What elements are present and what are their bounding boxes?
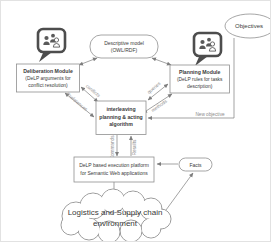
descriptive-model-node: Descriptive model (OWL/RDF): [90, 35, 158, 58]
edge-label-methods: methods: [150, 98, 168, 113]
planning-module-title: Planning Module: [179, 69, 221, 75]
interleaving-algorithm-node: interleaving planning & acting algorithm: [96, 101, 146, 135]
edges: conflicts Preferences queries methods Ne…: [65, 38, 234, 210]
deliberation-module-title: Deliberation Module: [23, 68, 73, 74]
edge-label-preferences: Preferences: [66, 92, 89, 112]
edge-environment-facts: [166, 173, 193, 210]
planning-module-node: Planning Module (DeLP rules for tasks de…: [170, 65, 230, 93]
edge-label-commands: Commands: [110, 135, 115, 160]
objectives-label: Objectives: [235, 23, 263, 29]
edge-label-new-objective: New objective: [195, 112, 225, 117]
architecture-diagram: conflicts Preferences queries methods Ne…: [0, 0, 271, 242]
facts-node: Facts: [179, 158, 212, 171]
planning-module-line2: description): [187, 84, 213, 89]
interleaving-line2: planning & acting: [99, 114, 143, 120]
edge-label-conflicts: conflicts: [85, 83, 102, 98]
deliberation-module-node: Deliberation Module (DeLP arguments for …: [17, 64, 80, 92]
agents-speech-bubble-icon-right: [194, 33, 221, 66]
edge-label-queries: queries: [147, 81, 162, 95]
deliberation-module-line1: (DeLP arguments for: [25, 76, 71, 81]
environment-label-line1: Logistics and Supply chain: [68, 208, 163, 217]
descriptive-model-line2: (OWL/RDF): [111, 47, 138, 53]
edge-model-deliberation: [79, 58, 97, 65]
objectives-node: Objectives: [225, 14, 270, 38]
environment-label-line2: environment: [93, 219, 138, 228]
agents-speech-bubble-icon-left: [38, 29, 65, 62]
facts-label: Facts: [189, 162, 202, 168]
deliberation-module-line2: conflict resolution): [28, 83, 68, 88]
edge-model-planning: [152, 58, 171, 65]
environment-cloud: Logistics and Supply chain environment: [61, 189, 171, 241]
execution-platform-node: DeLP based execution platform for Semant…: [74, 157, 154, 182]
planning-module-line1: (DeLP rules for tasks: [177, 77, 223, 82]
execution-platform-line1: DeLP based execution platform: [79, 162, 149, 168]
diagram-canvas: conflicts Preferences queries methods Ne…: [1, 1, 270, 241]
execution-platform-line2: for Semantic Web applications: [80, 170, 148, 176]
interleaving-line3: algorithm: [109, 121, 133, 127]
descriptive-model-line1: Descriptive model: [104, 40, 144, 46]
interleaving-line1: interleaving: [106, 106, 135, 112]
edge-label-results: Results: [132, 139, 137, 155]
